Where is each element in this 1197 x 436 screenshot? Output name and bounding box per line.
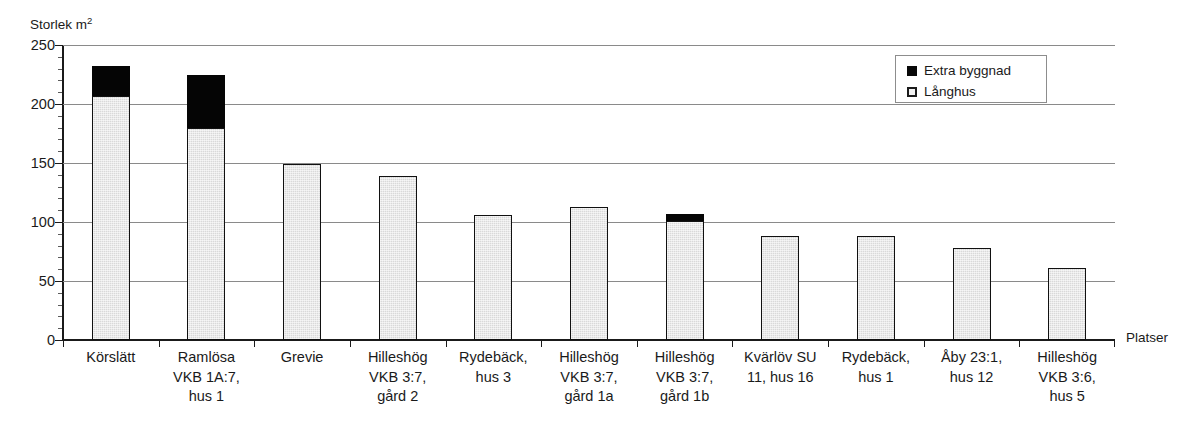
x-axis-tick <box>350 340 351 347</box>
y-axis-tick-label: 150 <box>31 156 55 170</box>
y-axis-minor-tick <box>58 305 62 306</box>
y-axis-minor-tick <box>58 92 62 93</box>
x-axis-category-label-line: VKB 3:7, <box>350 368 446 388</box>
bar-group <box>92 45 130 340</box>
x-axis-tick <box>1114 340 1115 347</box>
y-axis-minor-tick <box>58 234 62 235</box>
x-axis-category-label-line: Ramlösa <box>159 348 255 368</box>
x-axis-tick <box>732 340 733 347</box>
bar-segment-langhus <box>953 248 991 340</box>
x-axis-category-label-line: gård 2 <box>350 387 446 407</box>
y-axis-title-superscript: 2 <box>87 15 92 26</box>
y-axis-tick-label: 100 <box>31 215 55 229</box>
y-axis-tick <box>55 222 62 223</box>
x-axis-category-label: HilleshögVKB 3:7,gård 1b <box>637 348 733 407</box>
x-axis-category-label: Grevie <box>254 348 350 368</box>
bar-segment-langhus <box>570 207 608 340</box>
x-axis-category-label-line: VKB 1A:7, <box>159 368 255 388</box>
x-axis-category-label: Rydebäck,hus 1 <box>828 348 924 387</box>
x-axis-category-label-line: VKB 3:7, <box>541 368 637 388</box>
bar-segment-extra-byggnad <box>187 75 225 128</box>
legend-item-label: Långhus <box>924 85 976 99</box>
x-axis-tick <box>1019 340 1020 347</box>
y-axis-minor-tick <box>58 139 62 140</box>
y-axis-tick <box>55 340 62 341</box>
bar-segment-langhus <box>283 164 321 340</box>
x-axis-category-label-line: 11, hus 16 <box>732 368 828 388</box>
x-axis-tick <box>63 340 64 347</box>
bar-segment-langhus <box>761 236 799 340</box>
y-axis-title-text: Storlek m <box>30 17 87 32</box>
x-axis-category-label-line: Rydebäck, <box>828 348 924 368</box>
y-axis-minor-tick <box>58 328 62 329</box>
bar-segment-langhus <box>1048 268 1086 340</box>
bar-group <box>283 45 321 340</box>
x-axis-category-label-line: hus 12 <box>924 368 1020 388</box>
bar-segment-langhus <box>92 96 130 340</box>
y-axis-minor-tick <box>58 316 62 317</box>
bar-group <box>379 45 417 340</box>
y-axis-tick <box>55 281 62 282</box>
y-axis-tick-label: 0 <box>47 333 55 347</box>
y-axis-tick <box>55 104 62 105</box>
bar-segment-langhus <box>379 176 417 340</box>
y-axis-minor-tick <box>58 116 62 117</box>
y-axis-minor-tick <box>58 257 62 258</box>
y-axis-minor-tick <box>58 175 62 176</box>
y-axis-minor-tick <box>58 80 62 81</box>
x-axis-category-label-line: gård 1b <box>637 387 733 407</box>
x-axis-tick <box>637 340 638 347</box>
x-axis-category-label-line: Körslätt <box>63 348 159 368</box>
x-axis-category-label: Kvärlöv SU11, hus 16 <box>732 348 828 387</box>
y-axis-minor-tick <box>58 187 62 188</box>
x-axis-category-label: HilleshögVKB 3:7,gård 1a <box>541 348 637 407</box>
x-axis-category-label: RamlösaVKB 1A:7,hus 1 <box>159 348 255 407</box>
y-axis-minor-tick <box>58 246 62 247</box>
x-axis-category-label-line: Grevie <box>254 348 350 368</box>
y-axis-tick-label: 200 <box>31 97 55 111</box>
x-axis-category-label-line: gård 1a <box>541 387 637 407</box>
legend-item-label: Extra byggnad <box>924 64 1011 78</box>
y-axis-minor-tick <box>58 128 62 129</box>
bar-group <box>857 45 895 340</box>
x-axis-category-label-line: Åby 23:1, <box>924 348 1020 368</box>
x-axis-category-label-line: hus 5 <box>1019 387 1115 407</box>
x-axis-tick <box>446 340 447 347</box>
x-axis-category-label: Åby 23:1,hus 12 <box>924 348 1020 387</box>
x-axis-category-label-line: hus 1 <box>828 368 924 388</box>
x-axis-category-label: Körslätt <box>63 348 159 368</box>
bar-segment-langhus <box>666 221 704 340</box>
x-axis-category-label-line: hus 3 <box>446 368 542 388</box>
x-axis-category-label-line: Hilleshög <box>541 348 637 368</box>
x-axis-category-label-line: Hilleshög <box>350 348 446 368</box>
x-axis-category-label: HilleshögVKB 3:6,hus 5 <box>1019 348 1115 407</box>
legend-swatch-icon <box>907 87 917 97</box>
x-axis-category-label-line: Kvärlöv SU <box>732 348 828 368</box>
x-axis-category-label-line: Rydebäck, <box>446 348 542 368</box>
y-axis-tick-labels: 050100150200250 <box>0 45 55 341</box>
bar-segment-extra-byggnad <box>92 66 130 96</box>
legend-swatch-icon <box>907 66 917 76</box>
x-axis-category-label: HilleshögVKB 3:7,gård 2 <box>350 348 446 407</box>
bar-chart: Storlek m2 Platser 050100150200250 Körsl… <box>0 0 1197 436</box>
bar-segment-langhus <box>857 236 895 340</box>
x-axis-tick <box>541 340 542 347</box>
y-axis-tick <box>55 45 62 46</box>
x-axis-tick <box>159 340 160 347</box>
bar-group <box>474 45 512 340</box>
y-axis-minor-tick <box>58 198 62 199</box>
x-axis-category-label-line: hus 1 <box>159 387 255 407</box>
legend-item: Extra byggnad <box>907 61 1046 80</box>
x-axis-category-label-line: VKB 3:7, <box>637 368 733 388</box>
x-axis-title: Platser <box>1126 331 1168 345</box>
y-axis-title: Storlek m2 <box>30 18 92 32</box>
x-axis-category-label-line: Hilleshög <box>1019 348 1115 368</box>
x-axis-category-label-line: VKB 3:6, <box>1019 368 1115 388</box>
x-axis-tick <box>924 340 925 347</box>
y-axis-tick-label: 50 <box>39 274 55 288</box>
x-axis-category-label-line: Hilleshög <box>637 348 733 368</box>
bar-segment-langhus <box>474 215 512 340</box>
y-axis-minor-tick <box>58 210 62 211</box>
bar-group <box>187 45 225 340</box>
y-axis-minor-tick <box>58 69 62 70</box>
